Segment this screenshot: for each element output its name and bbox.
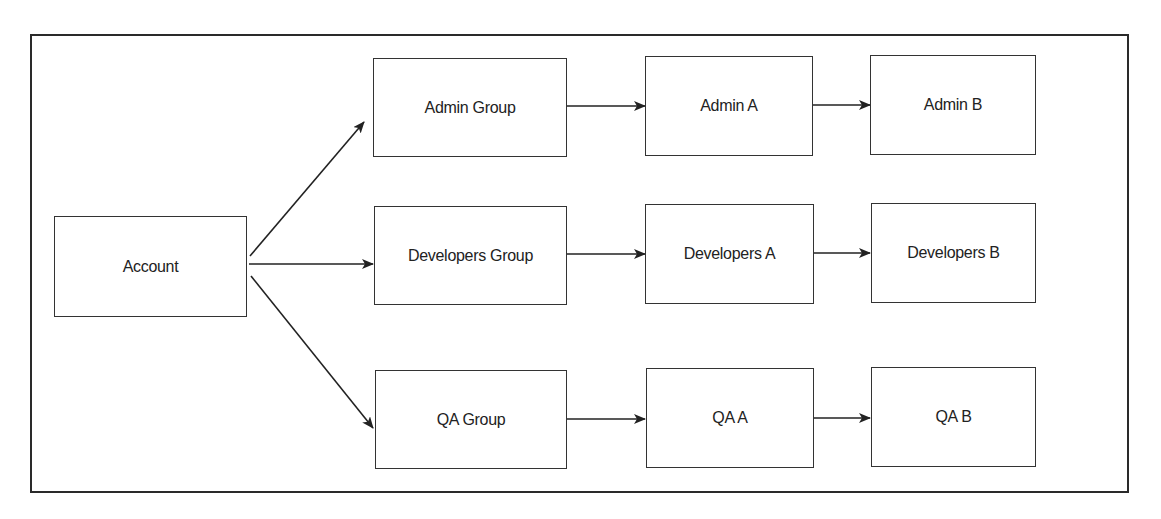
node-label: Admin A bbox=[700, 97, 758, 115]
edge-account-admin-group bbox=[250, 122, 364, 256]
node-dev-a: Developers A bbox=[645, 204, 814, 304]
node-label: Developers B bbox=[907, 244, 999, 262]
node-label: QA A bbox=[712, 409, 747, 427]
edge-account-qa-group bbox=[251, 276, 373, 428]
node-dev-group: Developers Group bbox=[374, 206, 567, 305]
node-qa-a: QA A bbox=[646, 368, 814, 468]
node-label: Developers A bbox=[684, 245, 776, 263]
node-label: Admin B bbox=[924, 96, 982, 114]
node-label: QA B bbox=[935, 408, 971, 426]
node-admin-group: Admin Group bbox=[373, 58, 567, 157]
node-label: Developers Group bbox=[408, 247, 533, 265]
node-label: QA Group bbox=[437, 411, 506, 429]
node-qa-group: QA Group bbox=[375, 370, 567, 469]
node-dev-b: Developers B bbox=[871, 203, 1036, 303]
node-label: Account bbox=[123, 258, 179, 276]
node-qa-b: QA B bbox=[871, 367, 1036, 467]
node-account: Account bbox=[54, 216, 247, 317]
node-admin-b: Admin B bbox=[870, 55, 1036, 155]
node-label: Admin Group bbox=[425, 99, 516, 117]
node-admin-a: Admin A bbox=[645, 56, 813, 156]
